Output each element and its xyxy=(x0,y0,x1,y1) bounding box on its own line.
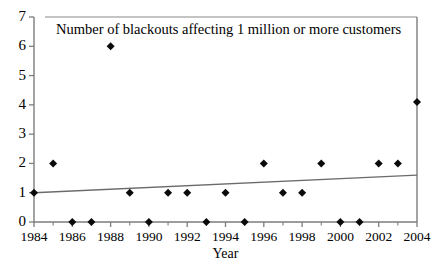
data-point-marker xyxy=(68,218,76,226)
data-point-marker xyxy=(260,159,268,167)
y-tick-label: 0 xyxy=(19,213,27,229)
data-point-marker xyxy=(222,189,230,197)
data-point-marker xyxy=(394,159,402,167)
chart-canvas: 0123456719841986198819901992199419961998… xyxy=(0,0,436,268)
y-tick-label: 1 xyxy=(19,184,27,200)
data-point-marker xyxy=(183,189,191,197)
y-tick-label: 2 xyxy=(19,154,27,170)
x-tick-label: 2002 xyxy=(365,229,392,244)
x-tick-label: 2004 xyxy=(404,229,431,244)
x-tick-label: 1984 xyxy=(21,229,48,244)
x-tick-label: 1994 xyxy=(212,229,239,244)
data-point-marker xyxy=(145,218,153,226)
data-point-marker xyxy=(336,218,344,226)
y-tick-label: 4 xyxy=(19,96,27,112)
chart-title: Number of blackouts affecting 1 million … xyxy=(56,21,402,37)
data-point-marker xyxy=(413,98,421,106)
x-tick-label: 1996 xyxy=(250,229,277,244)
y-tick-label: 3 xyxy=(19,125,27,141)
y-tick-label: 7 xyxy=(19,8,27,24)
x-tick-label: 1992 xyxy=(174,229,201,244)
x-tick-label: 1986 xyxy=(59,229,86,244)
x-tick-label: 1990 xyxy=(135,229,162,244)
data-point-marker xyxy=(202,218,210,226)
data-point-marker xyxy=(30,189,38,197)
x-tick-label: 1998 xyxy=(289,229,316,244)
x-axis-title: Year xyxy=(213,246,239,261)
data-point-marker xyxy=(241,218,249,226)
data-point-marker xyxy=(375,159,383,167)
y-tick-label: 6 xyxy=(19,37,27,53)
data-point-marker xyxy=(49,159,57,167)
data-point-marker xyxy=(356,218,364,226)
x-tick-label: 2000 xyxy=(327,229,354,244)
data-point-marker xyxy=(126,189,134,197)
data-point-marker xyxy=(107,42,115,50)
y-tick-label: 5 xyxy=(19,67,27,83)
data-point-marker xyxy=(87,218,95,226)
data-point-marker xyxy=(164,189,172,197)
data-point-marker xyxy=(279,189,287,197)
blackouts-scatter-chart: 0123456719841986198819901992199419961998… xyxy=(0,0,436,268)
data-point-marker xyxy=(317,159,325,167)
data-point-marker xyxy=(298,189,306,197)
x-tick-label: 1988 xyxy=(97,229,124,244)
